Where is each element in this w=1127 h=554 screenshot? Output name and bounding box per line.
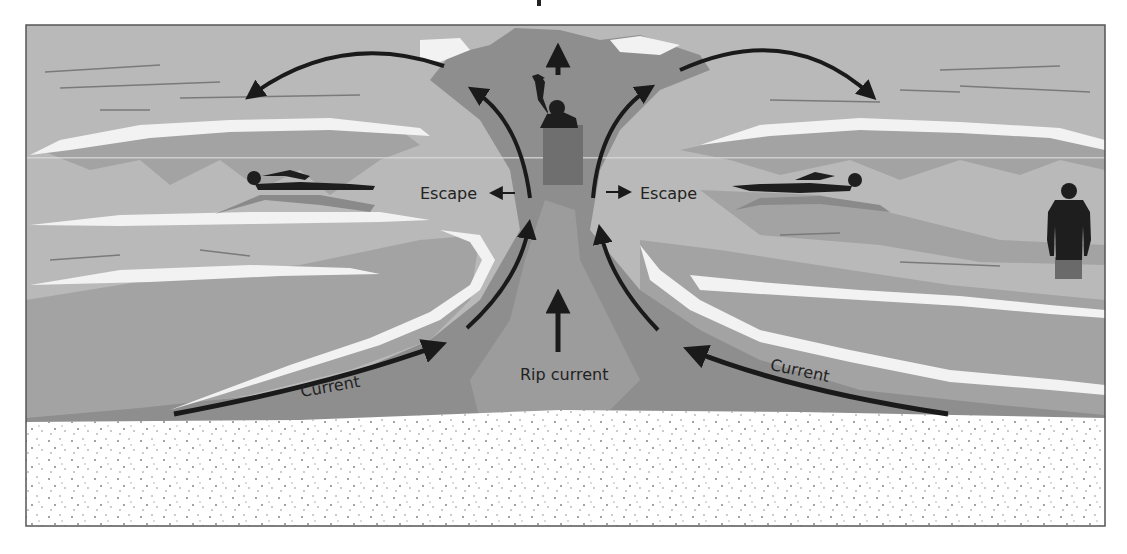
rip-current-diagram: Escape Escape Current Current Rip curren… (0, 0, 1127, 554)
rip-current-label: Rip current (520, 365, 609, 384)
title-fragment (537, 0, 541, 6)
escape-right-label: Escape (640, 184, 697, 203)
escape-left-label: Escape (420, 184, 477, 203)
sand-texture (26, 410, 1105, 526)
